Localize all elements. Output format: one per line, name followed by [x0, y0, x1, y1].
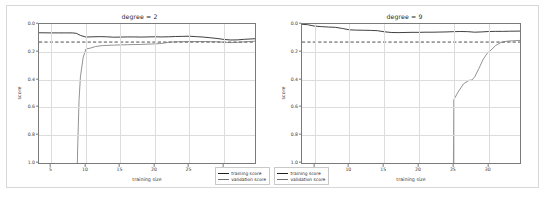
- panel-title: degree = 9: [272, 13, 537, 20]
- legend-label: training score: [231, 171, 261, 176]
- x-tick-mark: [85, 164, 86, 167]
- gridline-vertical: [224, 24, 225, 163]
- gridline-vertical: [349, 24, 350, 163]
- gridline-horizontal: [302, 107, 520, 108]
- x-tick-label: 25: [186, 167, 192, 172]
- x-tick-label: 20: [151, 167, 157, 172]
- learning-curves-figure: degree = 2 1.00.80.60.40.20.051015202530…: [7, 6, 538, 187]
- series-line-validation-score: [453, 40, 520, 163]
- y-tick-label: 0.8: [28, 132, 35, 137]
- gridline-vertical: [51, 24, 52, 163]
- x-tick-mark: [50, 164, 51, 167]
- y-tick-label: 0.2: [28, 48, 35, 53]
- legend: training score validation score: [274, 167, 329, 185]
- plot-area: [38, 23, 256, 164]
- legend-label: training score: [291, 171, 321, 176]
- x-tick-mark: [383, 164, 384, 167]
- legend-line-icon-training: [218, 173, 229, 174]
- legend: training score validation score: [215, 167, 270, 185]
- series-line-validation-score: [76, 41, 255, 163]
- y-tick-label: 0.8: [291, 132, 298, 137]
- x-tick-mark: [119, 164, 120, 167]
- x-tick-label: 5: [49, 167, 52, 172]
- gridline-vertical: [384, 24, 385, 163]
- curves-svg: [39, 24, 255, 163]
- gridline-vertical: [155, 24, 156, 163]
- gridline-horizontal: [302, 52, 520, 53]
- chart-panel-degree-2: degree = 2 1.00.80.60.40.20.051015202530…: [7, 6, 272, 187]
- gridline-horizontal: [302, 135, 520, 136]
- x-axis-label: training size: [301, 177, 521, 182]
- series-line-training-score: [302, 24, 520, 32]
- gridline-vertical: [454, 24, 455, 163]
- y-axis-label: score: [17, 87, 22, 100]
- x-tick-mark: [348, 164, 349, 167]
- gridline-vertical: [86, 24, 87, 163]
- legend-label: validation score: [291, 177, 326, 182]
- screenshot-root: degree = 2 1.00.80.60.40.20.051015202530…: [0, 0, 546, 200]
- panel-title: degree = 2: [7, 13, 272, 20]
- x-tick-mark: [418, 164, 419, 167]
- y-tick-label: 0.0: [28, 21, 35, 26]
- x-tick-label: 10: [345, 167, 351, 172]
- legend-item-validation: validation score: [218, 176, 266, 182]
- y-tick-label: 0.6: [291, 104, 298, 109]
- legend-line-icon-validation: [218, 179, 229, 180]
- x-tick-mark: [487, 164, 488, 167]
- y-tick-label: 0.0: [291, 21, 298, 26]
- gridline-vertical: [315, 24, 316, 163]
- gridline-horizontal: [302, 80, 520, 81]
- legend-line-icon-validation: [277, 179, 288, 180]
- y-tick-label: 1.0: [28, 160, 35, 165]
- gridline-vertical: [189, 24, 190, 163]
- legend-line-icon-training: [277, 173, 288, 174]
- gridline-horizontal: [39, 135, 255, 136]
- x-tick-label: 10: [82, 167, 88, 172]
- y-axis-label: score: [281, 87, 286, 100]
- y-tick-label: 0.6: [28, 104, 35, 109]
- gridline-vertical: [120, 24, 121, 163]
- plot-area: [301, 23, 521, 164]
- x-tick-label: 30: [485, 167, 491, 172]
- x-tick-label: 20: [415, 167, 421, 172]
- gridline-vertical: [419, 24, 420, 163]
- y-tick-label: 0.4: [28, 76, 35, 81]
- x-tick-mark: [188, 164, 189, 167]
- legend-label: validation score: [231, 177, 266, 182]
- x-tick-mark: [452, 164, 453, 167]
- x-tick-label: 15: [380, 167, 386, 172]
- legend-item-validation: validation score: [277, 176, 325, 182]
- gridline-vertical: [489, 24, 490, 163]
- x-tick-mark: [154, 164, 155, 167]
- gridline-horizontal: [39, 80, 255, 81]
- gridline-horizontal: [39, 52, 255, 53]
- curves-svg: [302, 24, 520, 163]
- y-tick-label: 1.0: [291, 160, 298, 165]
- x-tick-label: 15: [116, 167, 122, 172]
- x-tick-label: 25: [450, 167, 456, 172]
- y-tick-label: 0.4: [291, 76, 298, 81]
- chart-panel-degree-9: degree = 9 1.00.80.60.40.20.051015202530…: [272, 6, 537, 187]
- series-line-training-score: [39, 33, 255, 40]
- gridline-horizontal: [39, 107, 255, 108]
- y-tick-label: 0.2: [291, 48, 298, 53]
